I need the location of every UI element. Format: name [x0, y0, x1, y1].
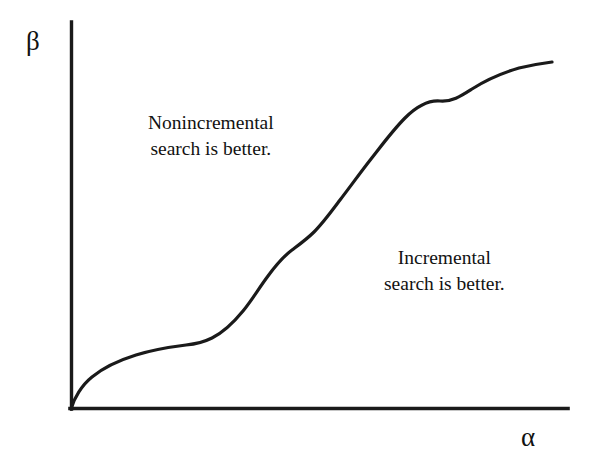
annotation-incremental-line2: search is better. [384, 271, 505, 297]
y-axis-label: β [26, 28, 40, 55]
annotation-incremental-line1: Incremental [384, 245, 505, 271]
annotation-nonincremental-line1: Nonincremental [148, 110, 274, 136]
annotation-nonincremental-line2: search is better. [148, 136, 274, 162]
x-axis-label: α [521, 424, 535, 451]
boundary-curve [71, 62, 552, 409]
plot-canvas [0, 0, 593, 474]
annotation-incremental: Incremental search is better. [384, 245, 505, 296]
annotation-nonincremental: Nonincremental search is better. [148, 110, 274, 161]
figure-container: β α Nonincremental search is better. Inc… [0, 0, 593, 474]
